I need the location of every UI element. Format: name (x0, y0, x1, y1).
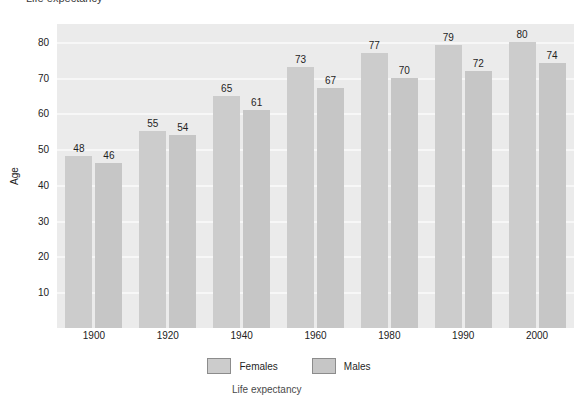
bar-value-label: 73 (295, 54, 306, 65)
bar-value-label: 80 (517, 29, 528, 40)
bar-females-1920[interactable]: 55 (139, 131, 166, 328)
bar-group: 6561 (213, 24, 270, 328)
bar-males-1900[interactable]: 46 (95, 163, 122, 328)
bar-males-1980[interactable]: 70 (391, 78, 418, 328)
x-tick-label: 1960 (304, 330, 326, 341)
x-tick-label: 1980 (378, 330, 400, 341)
bar-group: 4846 (65, 24, 122, 328)
chart-caption: Life expectancy (232, 385, 452, 395)
bar-value-label: 48 (73, 143, 84, 154)
bar-group: 5554 (139, 24, 196, 328)
bar-value-label: 74 (547, 50, 558, 61)
y-tick-label: 70 (38, 72, 49, 83)
bar-value-label: 61 (251, 97, 262, 108)
bar-females-1960[interactable]: 73 (287, 67, 314, 328)
bar-value-label: 54 (177, 122, 188, 133)
y-axis: Age 1020304050607080 (0, 24, 57, 328)
legend-swatch-females-icon (207, 358, 231, 374)
bar-males-1920[interactable]: 54 (169, 135, 196, 328)
chart-legend: Females Males (0, 358, 578, 374)
bar-females-2000[interactable]: 80 (509, 42, 536, 328)
y-tick-label: 10 (38, 287, 49, 298)
chart-title-text: Life expectancy (26, 0, 326, 4)
bar-value-label: 55 (147, 118, 158, 129)
plot-area: 4846555465617367777079728074 (57, 24, 574, 328)
bar-value-label: 72 (473, 58, 484, 69)
bar-value-label: 70 (399, 65, 410, 76)
bar-males-1990[interactable]: 72 (465, 71, 492, 329)
bar-group: 7972 (435, 24, 492, 328)
bar-value-label: 46 (103, 150, 114, 161)
bar-value-label: 67 (325, 75, 336, 86)
legend-label-females: Females (239, 361, 277, 372)
y-axis-title: Age (9, 167, 20, 185)
bar-females-1980[interactable]: 77 (361, 53, 388, 328)
bar-group: 7367 (287, 24, 344, 328)
bar-group: 8074 (509, 24, 566, 328)
x-tick-label: 2000 (526, 330, 548, 341)
x-tick-label: 1990 (452, 330, 474, 341)
bar-group: 7770 (361, 24, 418, 328)
chart-title: Life expectancy (26, 0, 326, 4)
bar-females-1990[interactable]: 79 (435, 45, 462, 328)
chart-caption-text: Life expectancy (232, 385, 452, 395)
bar-value-label: 65 (221, 83, 232, 94)
x-tick-label: 1900 (83, 330, 105, 341)
bar-females-1900[interactable]: 48 (65, 156, 92, 328)
bar-males-2000[interactable]: 74 (539, 63, 566, 328)
legend-swatch-males-icon (312, 358, 336, 374)
y-tick-label: 80 (38, 36, 49, 47)
y-tick-label: 40 (38, 179, 49, 190)
x-axis: 1900192019401960198019902000 (57, 330, 574, 346)
x-tick-label: 1920 (157, 330, 179, 341)
x-tick-label: 1940 (231, 330, 253, 341)
bar-males-1960[interactable]: 67 (317, 88, 344, 328)
bar-value-label: 77 (369, 40, 380, 51)
bar-females-1940[interactable]: 65 (213, 96, 240, 328)
legend-item-males[interactable]: Males (312, 358, 371, 374)
y-tick-label: 60 (38, 108, 49, 119)
bar-males-1940[interactable]: 61 (243, 110, 270, 328)
legend-item-females[interactable]: Females (207, 358, 277, 374)
legend-label-males: Males (344, 361, 371, 372)
y-tick-label: 20 (38, 251, 49, 262)
y-tick-label: 30 (38, 215, 49, 226)
bar-value-label: 79 (443, 32, 454, 43)
y-tick-label: 50 (38, 144, 49, 155)
